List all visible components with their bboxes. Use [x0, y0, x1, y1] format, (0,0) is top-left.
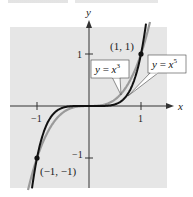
y-tick-label: −1 [72, 149, 83, 160]
y-axis-arrow-icon [86, 20, 92, 28]
x-tick-label: −1 [31, 113, 42, 124]
point-label-neg1-neg1: (−1, −1) [40, 165, 77, 178]
chart: x y −1 1 1 −1 y = x3 y = x5 (1, 1) (−1, … [0, 0, 193, 197]
point-1-1 [138, 51, 143, 56]
y-tick-label: 1 [77, 49, 82, 60]
y-axis-label: y [85, 6, 91, 18]
x-tick-label: 1 [138, 113, 143, 124]
point-label-1-1: (1, 1) [110, 40, 134, 53]
x-axis-arrow-icon [166, 103, 174, 109]
point-neg1-neg1 [34, 155, 39, 160]
x-axis-label: x [177, 100, 183, 112]
